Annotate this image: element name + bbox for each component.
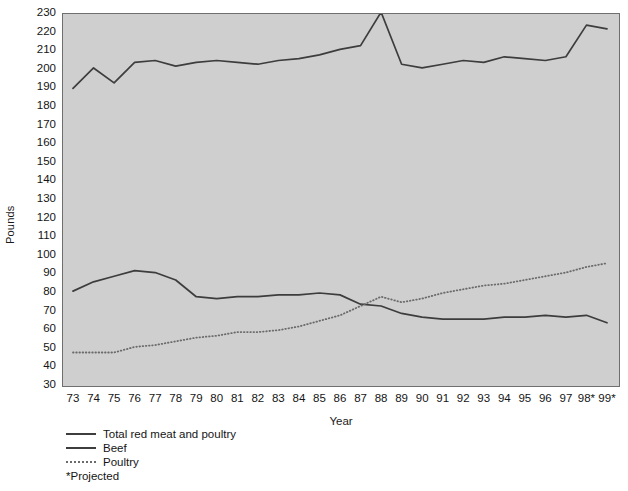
x-axis-tick: 91 [436, 392, 449, 404]
solid-line-swatch-icon [66, 442, 96, 454]
solid-line-swatch-icon [66, 428, 96, 440]
x-axis-tick: 92 [457, 392, 470, 404]
legend: Total red meat and poultryBeefPoultry*Pr… [66, 427, 366, 483]
x-axis-tick: 84 [293, 392, 306, 404]
y-axis-tick: 80 [20, 286, 56, 298]
legend-item: Total red meat and poultry [66, 427, 366, 441]
x-axis-title: Year [62, 415, 620, 427]
series-line [73, 14, 607, 88]
legend-item-label: Beef [103, 442, 127, 454]
legend-footnote: *Projected [66, 469, 366, 483]
y-axis-tick: 30 [20, 379, 56, 391]
x-axis-tick: 88 [375, 392, 388, 404]
y-axis-tick: 50 [20, 342, 56, 354]
y-axis-tick: 160 [20, 137, 56, 149]
y-axis-tick: 60 [20, 323, 56, 335]
y-axis-tick: 100 [20, 249, 56, 261]
x-axis-tick: 93 [477, 392, 490, 404]
x-axis-tick: 99* [598, 392, 615, 404]
x-axis-tick: 96 [539, 392, 552, 404]
x-axis-tick: 97 [560, 392, 573, 404]
plot-lines [63, 14, 619, 386]
x-axis-tick: 80 [210, 392, 223, 404]
dotted-line-swatch-icon [66, 456, 96, 468]
x-axis-tick: 77 [149, 392, 162, 404]
x-axis-tick: 89 [395, 392, 408, 404]
x-axis-tick: 79 [190, 392, 203, 404]
legend-item: Beef [66, 441, 366, 455]
y-axis-tick-labels: 2302202102001901801701601501401301201101… [20, 0, 56, 400]
x-axis-tick: 74 [87, 392, 100, 404]
y-axis-tick: 140 [20, 174, 56, 186]
x-axis-tick: 78 [169, 392, 182, 404]
x-axis-tick: 87 [354, 392, 367, 404]
x-axis-tick: 94 [498, 392, 511, 404]
series-line [73, 271, 607, 323]
x-axis-tick: 83 [272, 392, 285, 404]
y-axis-tick: 170 [20, 119, 56, 131]
y-axis-tick: 200 [20, 63, 56, 75]
y-axis-tick: 90 [20, 267, 56, 279]
x-axis-tick: 95 [518, 392, 531, 404]
y-axis-tick: 150 [20, 156, 56, 168]
x-axis-tick: 85 [313, 392, 326, 404]
y-axis-tick: 210 [20, 44, 56, 56]
y-axis-tick: 110 [20, 230, 56, 242]
y-axis-tick: 190 [20, 81, 56, 93]
y-axis-title: Pounds [4, 180, 18, 270]
x-axis-tick: 76 [128, 392, 141, 404]
y-axis-tick: 120 [20, 212, 56, 224]
plot-area [62, 13, 620, 387]
x-axis-tick: 73 [67, 392, 80, 404]
legend-item-label: Poultry [103, 456, 139, 468]
legend-item: Poultry [66, 455, 366, 469]
y-axis-tick: 220 [20, 26, 56, 38]
x-axis-tick: 86 [334, 392, 347, 404]
x-axis-tick-labels: 7374757677787980818283848586878889909192… [62, 392, 620, 408]
x-axis-tick: 90 [416, 392, 429, 404]
line-chart: Pounds 230220210200190180170160150140130… [0, 0, 628, 491]
x-axis-tick: 98* [578, 392, 595, 404]
x-axis-tick: 81 [231, 392, 244, 404]
y-axis-tick: 70 [20, 305, 56, 317]
series-line [73, 263, 607, 352]
x-axis-tick: 75 [108, 392, 121, 404]
y-axis-tick: 130 [20, 193, 56, 205]
y-axis-tick: 230 [20, 7, 56, 19]
x-axis-tick: 82 [251, 392, 264, 404]
y-axis-tick: 180 [20, 100, 56, 112]
y-axis-tick: 40 [20, 360, 56, 372]
legend-item-label: Total red meat and poultry [103, 428, 236, 440]
